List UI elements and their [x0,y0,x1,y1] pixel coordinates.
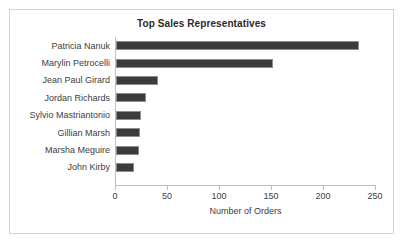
bar-track [116,37,385,54]
category-label: Jordan Richards [10,93,110,103]
category-label: Gillian Marsh [10,128,110,138]
bar-track [116,159,385,176]
x-tick-mark [167,186,168,190]
y-axis-line [115,37,116,185]
x-tick-label: 150 [263,191,278,201]
x-tick-label: 200 [315,191,330,201]
bar-track [116,89,385,106]
category-label: Patricia Nanuk [10,41,110,51]
x-tick-mark [375,186,376,190]
x-tick-mark [219,186,220,190]
bar-track [116,141,385,158]
chart-frame: Top Sales Representatives Patricia Nanuk… [9,9,394,234]
bar [116,111,141,120]
bar [116,76,158,85]
bar [116,128,140,137]
bar [116,41,359,50]
bar [116,59,273,68]
bar-track [116,107,385,124]
x-tick-mark [115,186,116,190]
bar-row: Marylin Petrocelli [10,54,395,71]
bar-row: Jordan Richards [10,89,395,106]
category-label: Jean Paul Girard [10,75,110,85]
x-tick-mark [271,186,272,190]
x-tick-label: 0 [112,191,117,201]
x-axis-title: Number of Orders [115,206,376,216]
category-label: Marylin Petrocelli [10,58,110,68]
bar [116,93,146,102]
bar [116,163,134,172]
category-label: Marsha Meguire [10,145,110,155]
bar-row: Patricia Nanuk [10,37,395,54]
bar-row: Sylvio Mastriantonio [10,107,395,124]
category-label: Sylvio Mastriantonio [10,110,110,120]
x-tick-mark [323,186,324,190]
x-tick-label: 250 [367,191,382,201]
bar-row: Jean Paul Girard [10,72,395,89]
bar [116,146,139,155]
bar-row: Gillian Marsh [10,124,395,141]
plot-area: Patricia NanukMarylin PetrocelliJean Pau… [10,37,395,185]
bar-row: John Kirby [10,159,395,176]
bar-row: Marsha Meguire [10,141,395,158]
chart-title: Top Sales Representatives [10,18,393,29]
bar-track [116,54,385,71]
x-axis-line [115,185,376,186]
bar-track [116,72,385,89]
x-tick-label: 100 [211,191,226,201]
bar-track [116,124,385,141]
category-label: John Kirby [10,162,110,172]
x-tick-label: 50 [162,191,172,201]
